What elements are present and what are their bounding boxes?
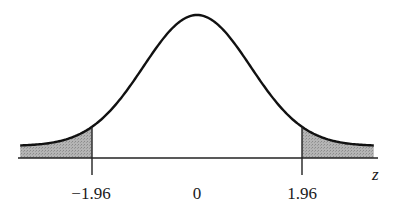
x-axis-label: z <box>371 165 379 184</box>
tick-label-zero: 0 <box>193 184 202 203</box>
tick-label-pos: 1.96 <box>287 184 317 203</box>
normal-curve-chart: −1.96 0 1.96 z <box>0 0 401 217</box>
tick-label-neg: −1.96 <box>71 184 110 203</box>
density-curve <box>20 15 374 145</box>
